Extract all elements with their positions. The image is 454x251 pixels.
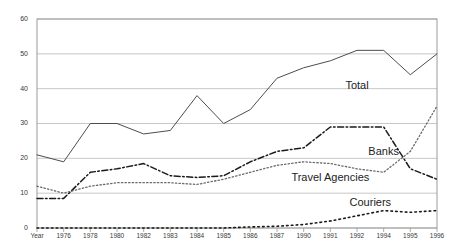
- series-label-banks: Banks: [368, 145, 399, 157]
- x-tick-label-1996: 1996: [419, 232, 454, 240]
- series-label-total: Total: [345, 79, 368, 91]
- series-label-couriers: Couriers: [350, 196, 392, 208]
- line-chart: 60 50 40 30 20 10 0 Year1976197819801982…: [0, 0, 454, 251]
- plot-area: [0, 0, 454, 251]
- series-line-couriers: [37, 211, 437, 228]
- series-line-travel-agencies: [37, 127, 437, 198]
- series-label-travel-agencies: Travel Agencies: [291, 171, 369, 183]
